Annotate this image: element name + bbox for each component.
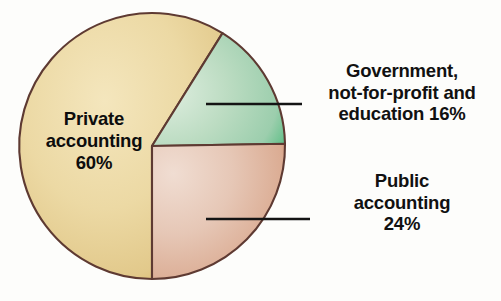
slice-label-public-line-3: 24% [316,213,488,235]
slice-label-government-line-3: education 16% [308,103,496,125]
slice-label-public-accounting: Public accounting 24% [316,170,488,235]
slice-label-private-accounting: Private accounting 60% [26,108,162,175]
slice-label-public-line-2: accounting [316,192,488,214]
pie-slice-public-accounting[interactable] [152,144,285,279]
slice-label-private-line-1: Private [26,108,162,130]
slice-label-private-line-3: 60% [26,152,162,174]
pie-chart-figure: Private accounting 60% Government, not-f… [0,0,501,301]
slice-label-private-line-2: accounting [26,130,162,152]
slice-label-government-line-1: Government, [308,60,496,82]
slice-label-public-line-1: Public [316,170,488,192]
slice-label-government-line-2: not-for-profit and [308,82,496,104]
slice-label-government: Government, not-for-profit and education… [308,60,496,125]
